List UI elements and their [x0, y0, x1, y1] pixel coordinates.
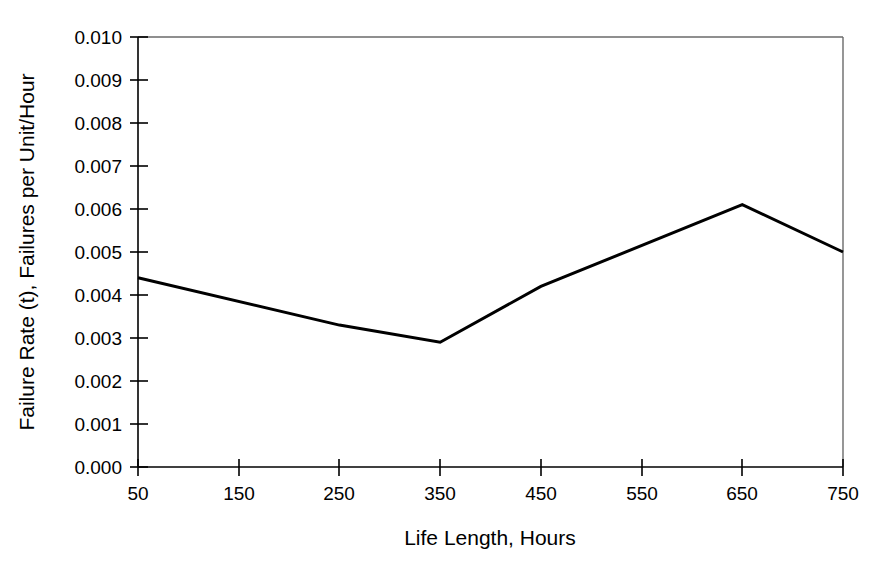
y-tick-label: 0.008 [74, 113, 122, 134]
y-tick-label: 0.002 [74, 371, 122, 392]
x-tick-label: 350 [424, 483, 456, 504]
x-tick-label: 250 [323, 483, 355, 504]
chart-canvas: 0.010 0.009 0.008 0.007 0.006 0.005 0.00… [0, 0, 888, 573]
y-tick-label: 0.005 [74, 242, 122, 263]
x-tick-label: 50 [127, 483, 148, 504]
y-tick-label: 0.006 [74, 199, 122, 220]
y-tick-label: 0.004 [74, 285, 122, 306]
x-tick-label: 450 [525, 483, 557, 504]
x-tick-label: 750 [827, 483, 859, 504]
y-tick-label: 0.007 [74, 156, 122, 177]
y-tick-label: 0.000 [74, 457, 122, 478]
y-tick-label: 0.009 [74, 70, 122, 91]
x-tick-label: 550 [626, 483, 658, 504]
y-tick-label: 0.003 [74, 328, 122, 349]
x-tick-label: 150 [223, 483, 255, 504]
y-tick-label: 0.001 [74, 414, 122, 435]
failure-rate-chart: 0.010 0.009 0.008 0.007 0.006 0.005 0.00… [0, 0, 888, 573]
y-axis-title: Failure Rate (t), Failures per Unit/Hour [15, 73, 38, 430]
x-axis-title: Life Length, Hours [404, 526, 576, 549]
y-tick-label: 0.010 [74, 27, 122, 48]
x-tick-label: 650 [726, 483, 758, 504]
